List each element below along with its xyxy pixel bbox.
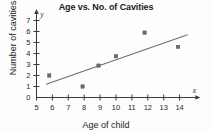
x-tick-label: 6: [50, 103, 54, 112]
data-point: [143, 31, 146, 34]
data-point: [176, 45, 179, 48]
x-axis-label: Age of child: [0, 120, 212, 130]
x-tick-label: 5: [34, 103, 38, 112]
x-axis-arrow: [195, 95, 200, 100]
y-axis-arrow: [34, 9, 39, 14]
x-tick-label: 11: [128, 103, 136, 112]
y-tick-label: 1: [26, 82, 30, 91]
x-axis-letter: x: [192, 86, 197, 95]
scatter-chart: Age vs. No. of Cavities 567891011121314 …: [0, 0, 212, 131]
y-axis: 01234567: [26, 9, 39, 102]
data-point: [81, 85, 84, 88]
y-axis-label: Number of cavities: [8, 0, 18, 86]
y-axis-letter: y: [39, 10, 44, 19]
y-tick-label: 4: [26, 49, 30, 58]
x-tick-label: 14: [175, 103, 183, 112]
y-tick-label: 6: [26, 27, 30, 36]
x-tick-label: 13: [160, 103, 168, 112]
y-tick-label: 2: [26, 71, 30, 80]
data-points: [48, 31, 180, 88]
x-axis: 567891011121314: [34, 95, 200, 112]
data-point: [97, 64, 100, 67]
y-tick-label: 0: [26, 93, 30, 102]
plot-area: 567891011121314 01234567 xy: [0, 0, 212, 131]
x-tick-label: 9: [98, 103, 102, 112]
y-tick-label: 5: [26, 38, 30, 47]
x-tick-label: 8: [82, 103, 86, 112]
y-tick-label: 3: [26, 60, 30, 69]
y-tick-label: 7: [26, 16, 30, 25]
axis-letters: xy: [39, 10, 196, 95]
trend-line: [46, 35, 188, 85]
x-tick-label: 10: [112, 103, 120, 112]
data-point: [114, 55, 117, 58]
x-tick-label: 7: [66, 103, 70, 112]
trend-line-segment: [46, 35, 188, 85]
x-tick-label: 12: [144, 103, 152, 112]
data-point: [48, 74, 51, 77]
